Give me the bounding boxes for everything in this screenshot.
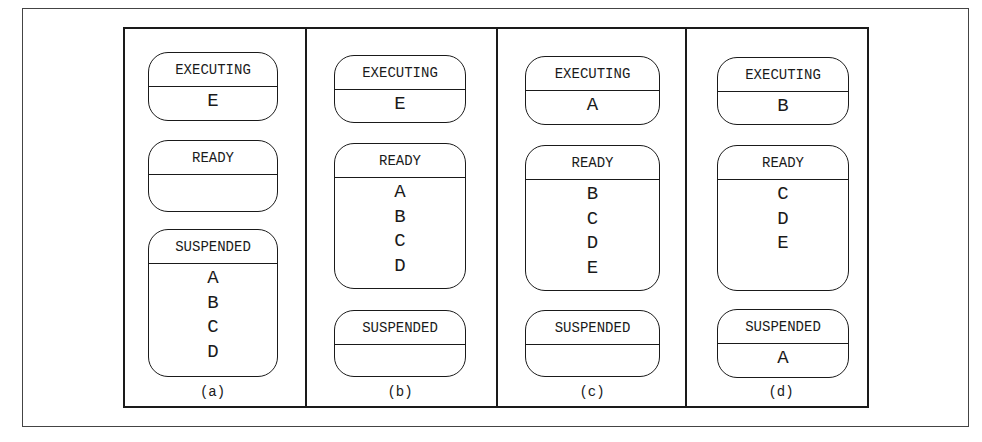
panel-label: (a): [122, 384, 303, 400]
list-item: E: [587, 256, 598, 281]
list-item: A: [587, 93, 598, 118]
list-item: C: [207, 315, 218, 340]
column-a: EXECUTING E READY SUSPENDED A B C D (a): [125, 29, 306, 406]
column-c: EXECUTING A READY B C D E SUSPENDED (c): [496, 29, 686, 406]
column-d: EXECUTING B READY C D E SUSPENDED A (d): [685, 29, 867, 406]
executing-box: EXECUTING B: [717, 57, 849, 125]
suspended-title: SUSPENDED: [335, 311, 465, 345]
suspended-title: SUSPENDED: [718, 310, 848, 344]
suspended-box: SUSPENDED: [525, 310, 660, 377]
list-item: D: [394, 254, 405, 279]
suspended-box: SUSPENDED A: [717, 309, 849, 378]
ready-title: READY: [526, 146, 659, 180]
list-item: D: [207, 340, 218, 365]
suspended-box: SUSPENDED A B C D: [148, 229, 278, 377]
ready-box: READY C D E: [717, 145, 849, 291]
executing-box: EXECUTING E: [334, 55, 466, 123]
list-item: A: [394, 180, 405, 205]
ready-box: READY A B C D: [334, 143, 466, 289]
list-item: B: [777, 94, 788, 119]
list-item: C: [587, 207, 598, 232]
ready-box: READY B C D E: [525, 145, 660, 291]
executing-title: EXECUTING: [335, 56, 465, 90]
list-item: A: [777, 346, 788, 371]
panel-label: (b): [305, 384, 495, 400]
panel-label: (d): [691, 384, 871, 400]
suspended-title: SUSPENDED: [149, 230, 277, 264]
ready-title: READY: [335, 144, 465, 178]
executing-title: EXECUTING: [526, 57, 659, 91]
list-item: B: [394, 205, 405, 230]
list-item: C: [777, 182, 788, 207]
list-item: A: [207, 266, 218, 291]
list-item: E: [777, 231, 788, 256]
list-item: D: [777, 207, 788, 232]
executing-box: EXECUTING E: [148, 52, 278, 121]
list-item: E: [394, 92, 405, 117]
list-item: B: [587, 182, 598, 207]
panel-label: (c): [498, 384, 686, 400]
executing-title: EXECUTING: [149, 53, 277, 87]
executing-box: EXECUTING A: [525, 56, 660, 125]
executing-title: EXECUTING: [718, 58, 848, 92]
list-item: B: [207, 291, 218, 316]
list-item: E: [207, 89, 218, 114]
ready-box: READY: [148, 140, 278, 212]
list-item: C: [394, 229, 405, 254]
suspended-box: SUSPENDED: [334, 310, 466, 377]
ready-title: READY: [718, 146, 848, 180]
column-b: EXECUTING E READY A B C D SUSPENDED (b): [305, 29, 497, 406]
diagram-panel: EXECUTING E READY SUSPENDED A B C D (a) …: [123, 27, 869, 408]
ready-title: READY: [149, 141, 277, 175]
list-item: D: [587, 231, 598, 256]
suspended-title: SUSPENDED: [526, 311, 659, 345]
